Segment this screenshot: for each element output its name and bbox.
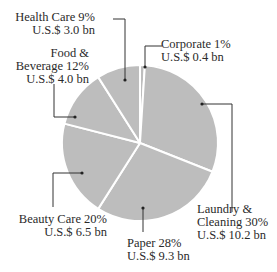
- label-laundry-value: U.S.$ 10.2 bn: [197, 229, 268, 242]
- label-paper: Paper 28% U.S.$ 9.3 bn: [127, 237, 190, 263]
- label-paper-value: U.S.$ 9.3 bn: [127, 250, 190, 263]
- label-health-care: Health Care 9% U.S.$ 3.0 bn: [15, 11, 95, 37]
- label-health-care-value: U.S.$ 3.0 bn: [15, 24, 95, 37]
- pie-slices: [62, 65, 218, 221]
- label-beauty-value: U.S.$ 6.5 bn: [19, 226, 107, 239]
- leader-corporate: [145, 46, 162, 67]
- label-beauty-care: Beauty Care 20% U.S.$ 6.5 bn: [19, 213, 107, 239]
- label-food-beverage-value: U.S.$ 4.0 bn: [16, 73, 89, 86]
- label-laundry-cleaning: Laundry & Cleaning 30% U.S.$ 10.2 bn: [197, 203, 268, 242]
- label-corporate-value: U.S.$ 0.4 bn: [161, 51, 231, 64]
- label-corporate: Corporate 1% U.S.$ 0.4 bn: [161, 38, 231, 64]
- label-food-beverage: Food & Beverage 12% U.S.$ 4.0 bn: [16, 47, 89, 86]
